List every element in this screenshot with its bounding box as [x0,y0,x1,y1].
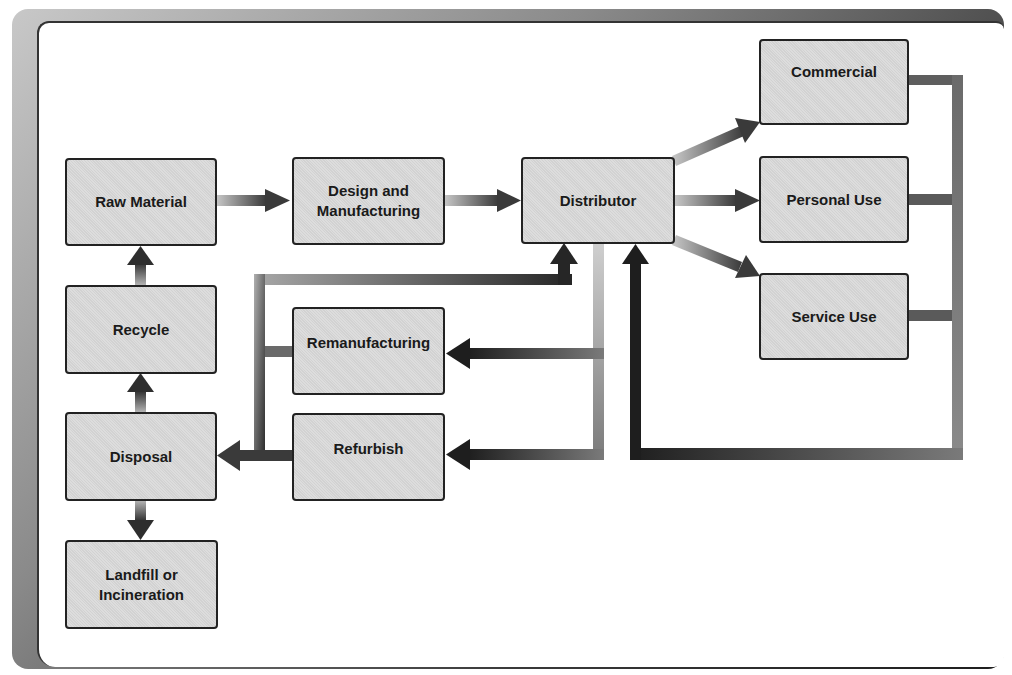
node-label: Remanufacturing [307,333,430,353]
node-personal-use: Personal Use [759,156,909,243]
node-refurbish: Refurbish [292,413,445,501]
node-landfill-incineration: Landfill or Incineration [65,540,218,629]
arrow-raw-to-design [216,189,290,212]
arrow-design-to-distributor [444,189,521,212]
node-recycle: Recycle [65,285,217,374]
node-commercial: Commercial [759,39,909,125]
node-label: Distributor [560,191,637,211]
node-label: Commercial [791,62,877,82]
node-disposal: Disposal [65,412,217,501]
node-label: Disposal [110,447,173,467]
node-design-manufacturing: Design and Manufacturing [292,157,445,245]
arrow-distributor-to-service [672,235,760,278]
node-remanufacturing: Remanufacturing [292,307,445,395]
node-label: Design and Manufacturing [317,181,420,221]
arrow-disposal-to-landfill [127,500,154,540]
node-raw-material: Raw Material [65,158,217,246]
node-label: Landfill or Incineration [99,565,184,605]
node-distributor: Distributor [521,157,675,244]
node-label: Raw Material [95,192,187,212]
return-bus-right [622,75,963,460]
node-label: Service Use [791,307,876,327]
arrow-recycle-to-raw [127,246,154,286]
arrow-distributor-to-commercial [672,118,760,166]
node-label: Refurbish [333,439,403,459]
node-label: Recycle [113,320,170,340]
node-label: Personal Use [786,190,881,210]
arrow-disposal-to-recycle [127,373,154,413]
node-service-use: Service Use [759,273,909,360]
arrow-distributor-to-personal [674,189,760,212]
